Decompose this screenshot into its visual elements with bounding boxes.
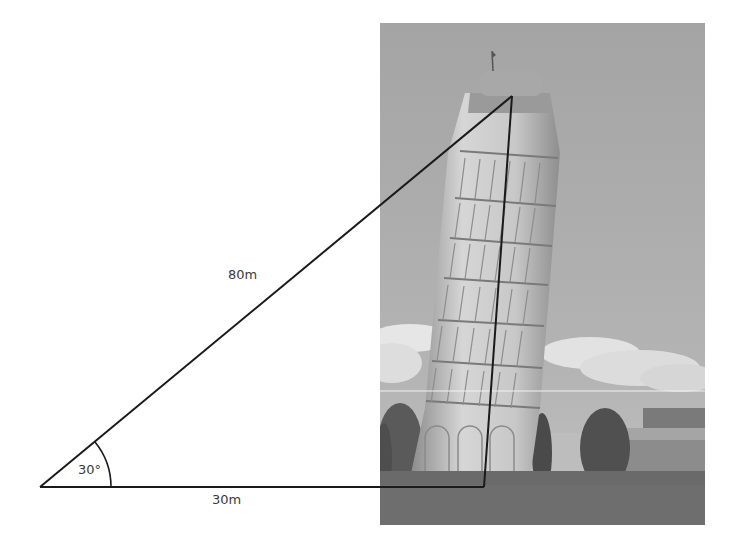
hypotenuse-label: 80m [228, 267, 257, 282]
base-label: 30m [212, 492, 241, 507]
triangle-diagram: 80m 30m 30° [0, 0, 735, 548]
angle-label: 30° [78, 462, 101, 477]
vertical-side-line [484, 96, 512, 487]
hypotenuse-line [40, 96, 512, 487]
